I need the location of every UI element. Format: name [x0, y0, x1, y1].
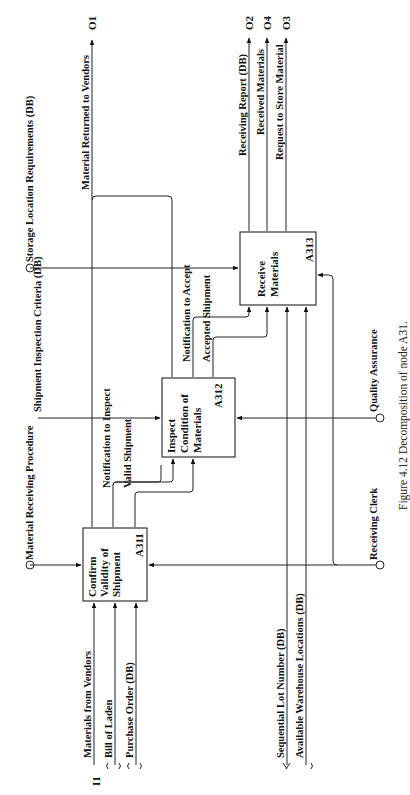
label-purchase-order: Purchase Order (DB) [124, 662, 136, 758]
label-quality-assurance: Quality Assurance [368, 329, 379, 412]
output-arrows: Receiving Report (DB) Received Materials… [237, 15, 292, 231]
label-received-materials: Received Materials [255, 49, 266, 135]
box-a312-node: A312 [212, 383, 224, 408]
label-valid-shipment: Valid Shipment [122, 418, 133, 488]
tunnel-icon-quality-assurance [376, 414, 384, 422]
label-storage-location-requirements: Storage Location Requirements (DB) [24, 95, 36, 262]
port-o1: O1 [86, 16, 98, 30]
figure-caption: Figure 4.12 Decomposition of node A31. [397, 321, 410, 510]
label-sequential-lot-number: Sequential Lot Number (DB) [275, 628, 287, 758]
label-notification-to-inspect: Notification to Inspect [101, 388, 112, 488]
idef0-diagram: Confirm Validity of Shipment A311 Inspec… [0, 0, 410, 795]
label-bill-of-laden: Bill of Laden [103, 699, 114, 758]
label-request-to-store-material: Request to Store Material [274, 44, 285, 160]
port-o4: O4 [261, 15, 273, 30]
box-a312-label-3: Materials [191, 407, 203, 453]
box-a311-label-2: Validity of [98, 548, 110, 597]
box-a311: Confirm Validity of Shipment A311 [83, 528, 147, 601]
label-available-warehouse-locations: Available Warehouse Locations (DB) [294, 593, 306, 758]
arrow-notification-to-inspect-path [113, 465, 161, 527]
box-a311-node: A311 [133, 533, 145, 557]
label-receiving-report: Receiving Report (DB) [237, 53, 249, 156]
label-notification-to-accept: Notification to Accept [181, 264, 192, 362]
box-a312-label-1: Inspect [165, 418, 177, 453]
box-a313-node: A313 [303, 237, 315, 262]
port-o3: O3 [280, 15, 292, 30]
box-a313-label-1: Receive [255, 261, 267, 297]
label-material-receiving-procedure: Material Receiving Procedure [24, 425, 35, 560]
port-o2: O2 [243, 15, 255, 30]
label-accepted-shipment: Accepted Shipment [201, 274, 212, 362]
box-a311-label-1: Confirm [86, 557, 98, 597]
label-shipment-inspection-criteria: Shipment Inspection Criteria (DB) [32, 256, 44, 412]
port-i1: I1 [90, 776, 102, 786]
tunnel-icon-receiving-clerk [376, 561, 384, 569]
box-a313: Receive Materials A313 [240, 232, 316, 305]
box-a312-label-2: Condition of [178, 394, 190, 453]
label-materials-from-vendors: Materials from Vendors [82, 651, 93, 758]
box-a311-label-3: Shipment [110, 551, 122, 597]
arrow-receiving-clerk-a313 [318, 275, 337, 565]
box-a312: Inspect Condition of Materials A312 [162, 378, 235, 457]
input-arrows: Materials from Vendors Bill of Laden Pur… [82, 603, 142, 786]
label-material-returned-to-vendors: Material Returned to Vendors [80, 55, 91, 190]
box-a313-label-2: Materials [268, 251, 280, 297]
arrow-valid-shipment [135, 459, 193, 527]
label-receiving-clerk: Receiving Clerk [368, 488, 379, 560]
